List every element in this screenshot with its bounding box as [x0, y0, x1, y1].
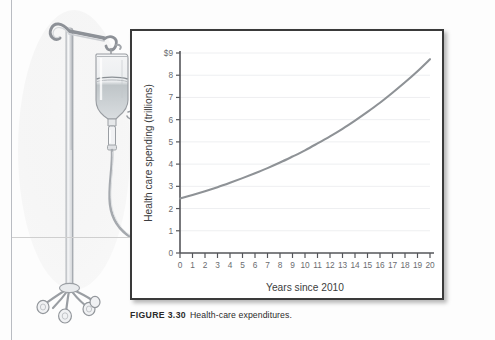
- y-tick-label: 2: [168, 204, 173, 214]
- floor-line: [12, 237, 142, 238]
- chart-container: 012345678$9 0123456789101112131415161718…: [132, 31, 442, 298]
- x-tick-label: 3: [215, 260, 220, 270]
- y-tick-label: 8: [168, 70, 173, 80]
- figure-caption-text: Health-care expenditures.: [190, 310, 292, 320]
- y-axis-title: Health care spending (trillions): [143, 84, 154, 222]
- x-tick-label: 14: [350, 260, 360, 270]
- x-tick-label: 4: [228, 260, 233, 270]
- x-axis-title: Years since 2010: [266, 282, 344, 293]
- y-tick-label: 7: [168, 92, 173, 102]
- y-tick-label: 0: [168, 248, 173, 258]
- x-tick-label: 7: [265, 260, 270, 270]
- figure-page: 012345678$9 0123456789101112131415161718…: [0, 0, 495, 340]
- x-tick-label: 5: [240, 260, 245, 270]
- gridlines: [180, 53, 430, 231]
- figure-panel: 012345678$9 0123456789101112131415161718…: [130, 29, 444, 300]
- health-care-spending-line-chart: 012345678$9 0123456789101112131415161718…: [132, 31, 442, 298]
- y-tick-label: 6: [168, 115, 173, 125]
- y-tick-label: $9: [164, 48, 174, 58]
- spending-curve: [180, 59, 430, 198]
- y-axis-ticks: 012345678$9: [164, 48, 180, 258]
- x-tick-label: 10: [300, 260, 310, 270]
- x-tick-label: 20: [425, 260, 435, 270]
- figure-number: FIGURE 3.30: [130, 310, 186, 320]
- x-axis-ticks: 01234567891011121314151617181920: [178, 253, 435, 270]
- x-tick-label: 18: [400, 260, 410, 270]
- x-tick-label: 1: [190, 260, 195, 270]
- y-tick-label: 1: [168, 226, 173, 236]
- x-tick-label: 2: [203, 260, 208, 270]
- x-tick-label: 11: [313, 260, 322, 270]
- x-tick-label: 13: [338, 260, 348, 270]
- x-tick-label: 12: [325, 260, 335, 270]
- y-tick-label: 5: [168, 137, 173, 147]
- y-tick-label: 3: [168, 181, 173, 191]
- y-tick-label: 4: [168, 159, 173, 169]
- x-tick-label: 9: [290, 260, 295, 270]
- x-tick-label: 6: [253, 260, 258, 270]
- x-tick-label: 15: [363, 260, 373, 270]
- figure-caption: FIGURE 3.30Health-care expenditures.: [130, 310, 470, 320]
- x-tick-label: 16: [375, 260, 385, 270]
- x-tick-label: 19: [413, 260, 423, 270]
- iv-stand-drawing: [12, 0, 142, 340]
- x-tick-label: 17: [388, 260, 398, 270]
- x-tick-label: 0: [178, 260, 183, 270]
- x-tick-label: 8: [278, 260, 283, 270]
- iv-drip-stand-illustration: [12, 0, 142, 340]
